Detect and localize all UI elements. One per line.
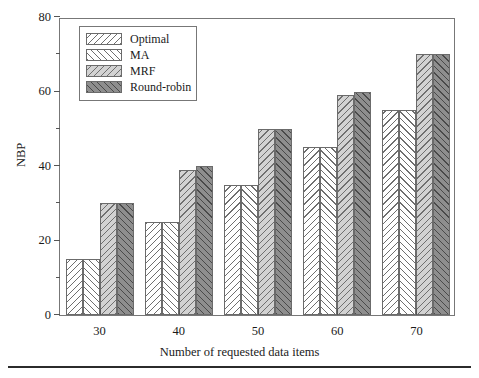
x-tick bbox=[179, 309, 180, 315]
y-axis-label: 40 bbox=[39, 160, 52, 173]
x-tick bbox=[258, 309, 259, 315]
x-axis-title: Number of requested data items bbox=[0, 345, 479, 360]
y-axis-label: 20 bbox=[39, 234, 52, 247]
y-axis-title: NBP bbox=[14, 143, 29, 167]
bar bbox=[399, 110, 416, 315]
x-axis-label: 40 bbox=[173, 324, 186, 339]
bar bbox=[196, 166, 213, 315]
y-tick-minor bbox=[56, 277, 60, 278]
legend-item-label: MRF bbox=[130, 64, 155, 79]
y-tick-minor bbox=[56, 53, 60, 54]
y-tick-major bbox=[54, 240, 60, 241]
y-axis-label: 0 bbox=[45, 309, 51, 322]
plot-area: 020406080 3040506070 OptimalMAMRFRound-r… bbox=[59, 18, 455, 316]
bar bbox=[303, 147, 320, 315]
y-tick-major bbox=[54, 165, 60, 166]
bar bbox=[275, 129, 292, 315]
bar bbox=[382, 110, 399, 315]
legend-swatch-icon bbox=[86, 81, 122, 93]
y-tick-minor bbox=[56, 202, 60, 203]
bar bbox=[162, 222, 179, 315]
bar bbox=[337, 95, 354, 315]
x-tick bbox=[337, 309, 338, 315]
y-tick-minor bbox=[56, 128, 60, 129]
x-axis-label: 30 bbox=[93, 324, 106, 339]
bar bbox=[354, 92, 371, 316]
bar bbox=[117, 203, 134, 315]
chart-legend: OptimalMAMRFRound-robin bbox=[79, 26, 197, 101]
y-tick-major bbox=[54, 91, 60, 92]
legend-item-label: Optimal bbox=[130, 32, 169, 47]
legend-item: Round-robin bbox=[86, 79, 190, 95]
y-axis-label: 60 bbox=[39, 85, 52, 98]
bar bbox=[179, 170, 196, 315]
figure-bottom-rule bbox=[8, 366, 471, 368]
legend-swatch-icon bbox=[86, 49, 122, 61]
figure-container: NBP 020406080 3040506070 OptimalMAMRFRou… bbox=[0, 0, 479, 378]
bar bbox=[66, 259, 83, 315]
bar bbox=[224, 185, 241, 315]
x-axis-label: 70 bbox=[410, 324, 423, 339]
x-axis-label: 50 bbox=[252, 324, 265, 339]
y-tick-major bbox=[54, 16, 60, 17]
legend-item-label: Round-robin bbox=[130, 80, 191, 95]
bar bbox=[83, 259, 100, 315]
x-tick bbox=[100, 309, 101, 315]
legend-item: MRF bbox=[86, 63, 190, 79]
legend-item: Optimal bbox=[86, 31, 190, 47]
x-tick bbox=[416, 309, 417, 315]
legend-swatch-icon bbox=[86, 65, 122, 77]
bar bbox=[433, 54, 450, 315]
bar bbox=[320, 147, 337, 315]
bar bbox=[241, 185, 258, 315]
y-tick-major bbox=[54, 314, 60, 315]
legend-swatch-icon bbox=[86, 33, 122, 45]
bar bbox=[145, 222, 162, 315]
x-axis-label: 60 bbox=[331, 324, 344, 339]
legend-item-label: MA bbox=[130, 48, 149, 63]
legend-item: MA bbox=[86, 47, 190, 63]
y-axis-label: 80 bbox=[39, 11, 52, 24]
bar bbox=[258, 129, 275, 315]
bar bbox=[416, 54, 433, 315]
bar bbox=[100, 203, 117, 315]
